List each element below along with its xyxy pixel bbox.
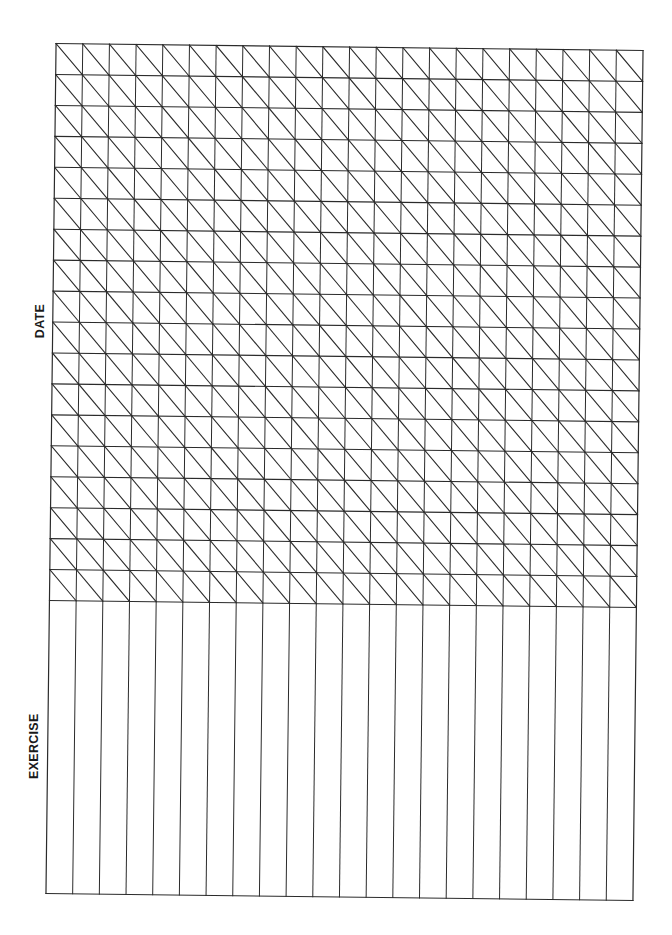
exercise-cell[interactable] (206, 602, 236, 895)
exercise-cell[interactable] (126, 601, 156, 894)
exercise-log-page: DATE EXERCISE (0, 0, 672, 935)
date-label: DATE (34, 301, 46, 341)
exercise-cell[interactable] (233, 602, 263, 895)
exercise-cell[interactable] (366, 604, 396, 897)
exercise-cell[interactable] (179, 602, 209, 895)
exercise-cell[interactable] (339, 603, 369, 896)
exercise-cell[interactable] (153, 601, 183, 894)
exercise-cell[interactable] (393, 604, 423, 897)
exercise-log-grid (46, 43, 643, 900)
exercise-cell[interactable] (553, 606, 583, 899)
exercise-cell[interactable] (73, 600, 103, 893)
exercise-cell[interactable] (46, 600, 76, 893)
exercise-cell[interactable] (473, 605, 503, 898)
exercise-cell[interactable] (446, 605, 476, 898)
grid-drawing (46, 43, 643, 900)
exercise-cell[interactable] (259, 603, 289, 896)
exercise-cell[interactable] (99, 601, 129, 894)
exercise-cell[interactable] (313, 603, 343, 896)
exercise-cell[interactable] (500, 605, 530, 898)
exercise-cell[interactable] (419, 604, 449, 897)
exercise-label: EXERCISE (28, 719, 40, 779)
exercise-cell[interactable] (286, 603, 316, 896)
exercise-cell[interactable] (526, 606, 556, 899)
exercise-cell[interactable] (606, 607, 636, 900)
exercise-cell[interactable] (580, 606, 610, 899)
